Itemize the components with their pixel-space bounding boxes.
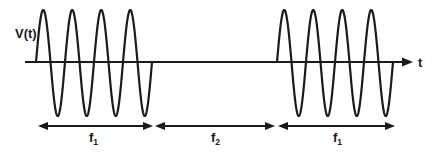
arrowhead-left-icon [155,122,165,130]
voltage-axis-label: V(t) [15,26,37,41]
arrowhead-left-icon [38,122,48,130]
fsk-waveform-diagram: t V(t) f1f2f1 [0,0,432,153]
arrowhead-left-icon [278,122,288,130]
arrowhead-right-icon [143,122,153,130]
frequency-segments: f1f2f1 [38,122,395,147]
frequency-label-2: f2 [211,130,220,147]
arrowhead-right-icon [265,122,275,130]
time-axis-label: t [418,55,423,70]
frequency-label-3: f1 [333,130,342,147]
frequency-label-1: f1 [89,130,98,147]
arrowhead-right-icon [385,122,395,130]
time-axis-arrowhead-icon [402,58,413,67]
